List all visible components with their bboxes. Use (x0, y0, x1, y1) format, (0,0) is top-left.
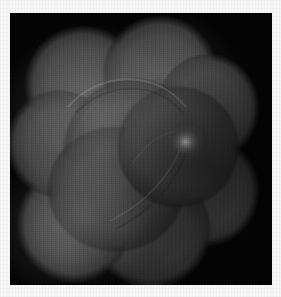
scan-image-viewer (0, 0, 281, 297)
specimen-mass (10, 15, 266, 283)
specimen-lobe (116, 85, 240, 209)
scan-frame (10, 13, 272, 285)
